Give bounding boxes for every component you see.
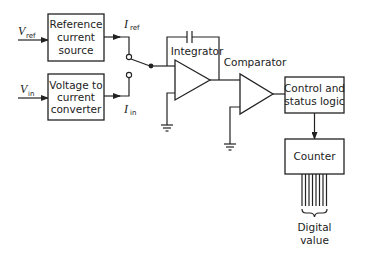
svg-text:I: I [123,102,129,116]
svg-text:ref: ref [26,32,36,40]
svg-text:status logic: status logic [284,95,345,107]
svg-text:Reference: Reference [50,18,103,30]
digital-value-label-line2: value [300,234,329,246]
comparator-label: Comparator [224,56,287,68]
voltage-to-current-converter-block: Voltage to current converter [48,74,104,120]
svg-text:current: current [57,31,95,43]
svg-text:current: current [57,91,95,103]
svg-text:in: in [130,109,136,117]
integrator-opamp [175,60,210,100]
digital-value-brace [302,209,327,217]
integrator-ground-icon [161,125,173,131]
svg-text:ref: ref [130,24,140,32]
svg-text:Control and: Control and [284,82,345,94]
comparator-ground-wire [230,107,240,144]
iref-label: I ref [123,17,140,32]
vref-input-label: V ref [18,24,36,40]
adc-block-diagram: V ref Reference current source V in Volt… [0,0,365,257]
digital-output-bus [302,174,327,206]
svg-text:in: in [28,90,34,98]
selector-switch [126,54,153,77]
svg-text:Voltage to: Voltage to [49,79,102,91]
iin-label: I in [123,102,136,117]
switch-contact-in [126,72,131,77]
integrator-ground-wire [167,93,175,125]
switch-contact-ref [126,54,131,59]
comparator-ground-icon [224,144,236,150]
svg-text:source: source [59,44,94,56]
counter-block: Counter [285,139,344,174]
svg-text:converter: converter [51,103,102,115]
svg-text:I: I [123,17,129,31]
integrator-label: Integrator [171,45,224,57]
digital-value-label-line1: Digital [297,221,331,233]
comparator-opamp [240,74,273,114]
iin-wire [118,78,129,96]
reference-current-source-block: Reference current source [48,14,104,61]
iref-wire [118,37,129,54]
control-status-logic-block: Control and status logic [284,77,345,113]
vin-input-label: V in [20,82,34,98]
svg-text:Counter: Counter [294,150,337,162]
